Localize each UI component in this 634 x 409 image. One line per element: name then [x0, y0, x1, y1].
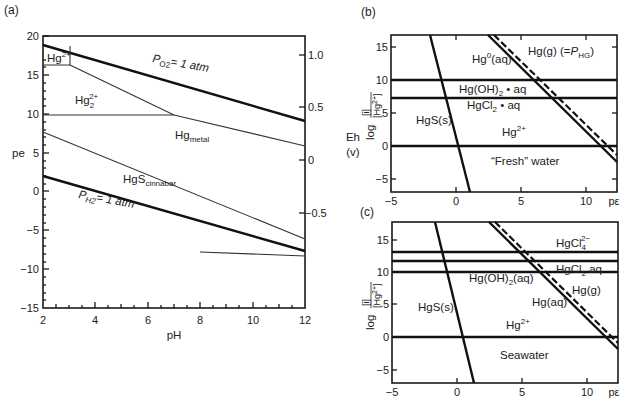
label-hgcl2: HgCl2 • aq [467, 99, 520, 114]
panel-a-x-tick-labels: 2 4 6 8 10 12 [40, 314, 311, 326]
label-hg2: Hg2+ [47, 50, 71, 64]
tick-label: 0 [454, 386, 460, 398]
label-hgs: HgS(s) [418, 301, 454, 313]
ylabel-log: log [364, 315, 376, 330]
tick-label: 6 [145, 314, 151, 326]
panel-a-y2label-unit: (v) [346, 146, 360, 158]
label-hg2: Hg2+ [506, 317, 530, 331]
panel-a-ylabel: pe [12, 147, 25, 159]
hg22-hgmetal-sloped [70, 65, 174, 115]
label-hgoh2-aq: Hg(OH)2(aq) [469, 272, 534, 287]
tick-label: 10 [27, 108, 39, 120]
tick-label: −5 [26, 224, 39, 236]
label-hgaq: Hg(aq) [532, 296, 567, 308]
tick-label: −5 [376, 364, 389, 376]
panel-c: (c) 15 10 5 0 −5 −5 0 5 10 pε log [360, 205, 620, 398]
label-ph2: PH2= 1 atm [77, 188, 136, 213]
hgs-lower [200, 252, 305, 256]
panel-a-y2-tick-labels: 1.0 0.5 0 −0.5 [305, 49, 327, 219]
panel-a: (a) [4, 3, 360, 341]
tick-label: −10 [20, 263, 39, 275]
tick-label: 10 [376, 74, 388, 86]
tick-label: 20 [27, 30, 39, 42]
panel-b-label: (b) [361, 5, 376, 19]
panel-c-ylabel: log [i] [Hg2+] [361, 282, 382, 330]
label-hgcl2-aq: HgCl2 aq [556, 263, 602, 278]
ylabel-num: [i] [361, 299, 371, 306]
panel-b: (b) 15 10 5 0 −5 −5 0 [361, 5, 620, 207]
label-seawater: Seawater [500, 349, 549, 361]
tick-label: −5 [385, 195, 398, 207]
tick-label: 0 [308, 154, 314, 166]
tick-label: 5 [382, 107, 388, 119]
tick-label: 15 [27, 69, 39, 81]
tick-label: 0 [383, 331, 389, 343]
tick-label: 0 [453, 195, 459, 207]
tick-label: 0.5 [308, 101, 323, 113]
label-hg2: Hg2+ [502, 124, 526, 138]
tick-label: 5 [383, 298, 389, 310]
x-unit-label: pε [608, 195, 619, 207]
ylabel-den: [Hg2+] [371, 283, 382, 308]
ylabel-log: log [364, 125, 376, 140]
tick-label: 15 [376, 41, 388, 53]
label-hgg: Hg(g) [572, 284, 601, 296]
tick-label: 12 [299, 314, 311, 326]
ylabel-den: [Hg2+] [371, 93, 382, 118]
x-unit-label: pε [608, 386, 619, 398]
tick-label: 0 [33, 185, 39, 197]
tick-label: 1.0 [308, 49, 323, 61]
label-hgcl4: HgCl42− [556, 234, 590, 252]
tick-label: 10 [377, 266, 389, 278]
label-hgoh2: Hg(OH)2 • aq [459, 83, 526, 98]
tick-label: 15 [377, 234, 389, 246]
panel-a-label: (a) [4, 3, 19, 17]
panel-c-x-tick-labels: −5 0 5 10 pε [386, 386, 620, 398]
panel-b-x-tick-labels: −5 0 5 10 pε [385, 195, 620, 207]
tick-label: −15 [20, 302, 39, 314]
tick-label: 2 [40, 314, 46, 326]
label-po2: PO2= 1 atm [151, 52, 210, 77]
label-hgmetal: Hgmetal [175, 129, 209, 144]
panel-c-label: (c) [360, 205, 374, 219]
figure-canvas: (a) [0, 0, 634, 409]
label-hg0aq: Hg0(aq) [472, 51, 512, 65]
panel-a-y-tick-labels: 20 15 10 5 0 −5 −10 −15 [20, 30, 39, 314]
panel-a-y2-ticks [299, 55, 305, 213]
ylabel-num: [i] [361, 109, 371, 116]
label-hgs: HgS(s) [416, 114, 452, 126]
panel-a-frame [43, 36, 305, 308]
tick-label: −0.5 [305, 207, 327, 219]
tick-label: 10 [581, 386, 593, 398]
panel-a-y2label-eh: Eh [346, 131, 360, 143]
tick-label: 5 [519, 386, 525, 398]
tick-label: 4 [92, 314, 98, 326]
tick-label: 10 [247, 314, 259, 326]
tick-label: 5 [33, 147, 39, 159]
tick-label: 5 [518, 195, 524, 207]
tick-label: 8 [197, 314, 203, 326]
panel-b-ylabel: log [i] [Hg2+] [361, 92, 382, 140]
panel-a-lines [43, 45, 305, 256]
tick-label: −5 [386, 386, 399, 398]
panel-a-x-ticks [56, 302, 292, 308]
tick-label: 0 [382, 140, 388, 152]
label-hgg: Hg(g) (=PHG) [528, 45, 594, 60]
tick-label: −5 [375, 173, 388, 185]
panel-a-xlabel: pH [167, 329, 182, 341]
panel-a-y-ticks [43, 36, 49, 300]
tick-label: 10 [580, 195, 592, 207]
label-hg22: Hg22+ [75, 92, 99, 110]
label-fresh-water: “Fresh” water [491, 155, 560, 167]
